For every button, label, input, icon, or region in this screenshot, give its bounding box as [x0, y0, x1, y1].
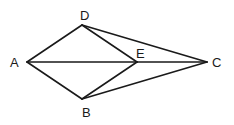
point-label-b: B	[82, 105, 91, 120]
point-labels: ADBEC	[10, 8, 221, 120]
segment-de	[82, 25, 137, 62]
segment-be	[82, 62, 137, 99]
segment-bc	[82, 62, 207, 99]
geometry-diagram: ADBEC	[0, 0, 234, 125]
segment-ad	[27, 25, 82, 62]
point-label-a: A	[10, 55, 19, 70]
segment-ab	[27, 62, 82, 99]
point-label-e: E	[136, 46, 145, 61]
point-label-c: C	[212, 55, 221, 70]
segments	[27, 25, 207, 99]
point-label-d: D	[80, 8, 89, 23]
